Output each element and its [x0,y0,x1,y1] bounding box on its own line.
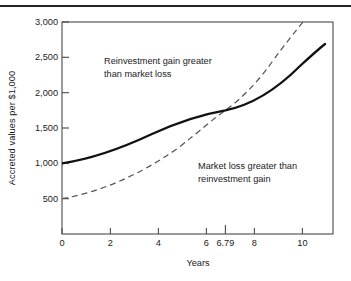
plot-frame [62,22,333,234]
y-tick-label: 1,000 [18,158,58,168]
y-tick-label: 2,500 [18,52,58,62]
y-axis-title: Accreted values per $1,000 [2,22,22,234]
x-tick-label: 2 [90,238,130,248]
annotation-market-loss: Market loss greater than reinvestment ga… [198,160,297,185]
y-axis-ticks [62,22,69,199]
x-axis-title: Years [62,258,334,268]
y-tick-label: 3,000 [18,17,58,27]
annotation-reinvestment-gain: Reinvestment gain greater than market lo… [104,55,212,80]
y-tick-label: 1,500 [18,123,58,133]
x-axis-ticks [62,225,302,234]
x-tick-label: 10 [282,238,322,248]
chart-figure: 3,000 2,500 2,000 1,500 1,000 500 0 2 4 … [0,0,351,281]
x-tick-label: 4 [138,238,178,248]
x-tick-label: 0 [42,238,82,248]
y-tick-label: 2,000 [18,88,58,98]
y-tick-label: 500 [18,194,58,204]
x-tick-label: 8 [234,238,274,248]
y-axis-title-text: Accreted values per $1,000 [7,71,17,185]
